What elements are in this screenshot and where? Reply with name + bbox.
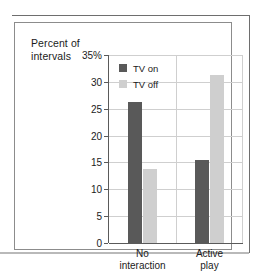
y-tick-mark — [104, 109, 108, 110]
y-tick-mark — [104, 55, 108, 56]
bar-tv-off-active-play — [210, 75, 224, 243]
y-tick-label: 20 — [91, 130, 102, 141]
x-category-label: Activeplay — [173, 248, 247, 272]
x-category-label-line: No — [106, 248, 180, 260]
y-tick-mark — [104, 162, 108, 163]
y-tick-label: 15 — [91, 157, 102, 168]
legend-swatch-icon — [119, 64, 127, 72]
page-rule-right — [249, 15, 250, 253]
plot-inner: 05101520253035%NointeractionActiveplayTV… — [109, 55, 243, 243]
plot-area: 05101520253035%NointeractionActiveplayTV… — [109, 55, 243, 243]
y-tick-mark — [104, 136, 108, 137]
y-tick-label: 25 — [91, 103, 102, 114]
y-tick-label: 30 — [91, 76, 102, 87]
figure-box: Percent of intervals 05101520253035%Noin… — [14, 22, 232, 250]
x-category-label-line: play — [173, 260, 247, 272]
y-tick-mark — [104, 243, 108, 244]
y-tick-label: 0 — [96, 238, 102, 249]
x-category-label-line: interaction — [106, 260, 180, 272]
legend-item-tv-on: TV on — [119, 61, 158, 75]
group-divider — [176, 55, 177, 243]
legend-label: TV on — [133, 63, 158, 74]
y-tick-mark — [104, 82, 108, 83]
bar-tv-on-active-play — [195, 160, 209, 243]
y-axis-title-line-1: Percent of — [31, 37, 103, 50]
x-axis-line — [109, 243, 243, 244]
x-category-label: Nointeraction — [106, 248, 180, 272]
y-axis-line — [108, 55, 109, 243]
y-tick-mark — [104, 216, 108, 217]
legend: TV onTV off — [119, 61, 158, 93]
legend-item-tv-off: TV off — [119, 77, 158, 91]
legend-swatch-icon — [119, 80, 127, 88]
page-rule-top — [12, 15, 250, 16]
legend-label: TV off — [133, 79, 158, 90]
bar-tv-on-no-interaction — [128, 102, 142, 243]
x-category-label-line: Active — [173, 248, 247, 260]
plot-right-border — [242, 55, 243, 243]
y-tick-label: 10 — [91, 184, 102, 195]
y-tick-label: 5 — [96, 211, 102, 222]
y-tick-mark — [104, 189, 108, 190]
bar-tv-off-no-interaction — [143, 169, 157, 243]
y-tick-label: 35% — [82, 50, 102, 61]
